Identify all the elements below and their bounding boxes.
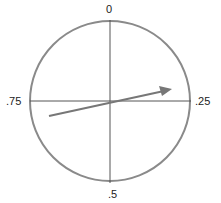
phase-circle-diagram bbox=[0, 0, 221, 203]
arrow-head-icon bbox=[159, 86, 172, 96]
label-left: .75 bbox=[6, 96, 21, 107]
label-top: 0 bbox=[106, 4, 112, 15]
label-bottom: .5 bbox=[108, 189, 117, 200]
phase-arrow bbox=[49, 91, 164, 116]
label-right: .25 bbox=[195, 96, 210, 107]
